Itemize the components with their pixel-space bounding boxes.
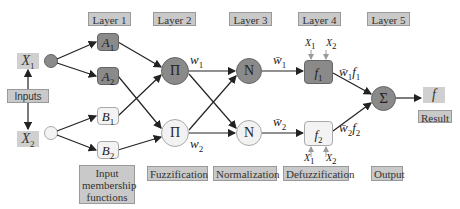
x2-symbol: X — [21, 131, 30, 146]
b1-symbol: B — [102, 109, 110, 124]
w1-bar-symbol: w̄ — [273, 52, 282, 67]
w1-symbol: w — [190, 52, 199, 67]
normalization-node-2: N — [236, 120, 262, 146]
x1-subscript: 1 — [30, 61, 35, 71]
input-x2: X2 — [17, 131, 39, 147]
f1-input-x1: X1 — [305, 37, 316, 51]
w2-bar-subscript: 2 — [282, 122, 287, 132]
output-label: Output — [371, 166, 403, 181]
layer-2-label: Layer 2 — [153, 12, 196, 26]
weight-w2: w2 — [190, 136, 203, 154]
product-node-1: Π — [161, 57, 189, 85]
inputs-label: Inputs — [7, 89, 49, 103]
w1-bar-subscript: 1 — [282, 60, 287, 70]
node-b2: B2 — [97, 141, 119, 159]
node-a1: A1 — [97, 33, 119, 51]
result-f: f — [423, 87, 445, 103]
layer-5-label: Layer 5 — [367, 12, 410, 26]
b1-subscript: 1 — [110, 117, 115, 127]
w2-bar-symbol: w̄ — [273, 114, 282, 129]
x2-subscript: 2 — [30, 139, 35, 149]
f2-input-x1: X1 — [304, 152, 315, 166]
node-a2: A2 — [97, 67, 119, 85]
input-x1: X1 — [17, 53, 39, 69]
f1-input-x2: X2 — [326, 37, 337, 51]
w2-subscript: 2 — [199, 144, 204, 154]
f1-subscript: 1 — [318, 73, 323, 83]
input-membership-functions-label: Input membership functions — [79, 165, 135, 204]
a2-symbol: A — [102, 69, 110, 84]
defuzzification-label: Defuzzification — [283, 166, 349, 181]
node-f2: f2 — [304, 121, 333, 146]
w1f1-f-subscript: 1 — [356, 72, 361, 82]
product-node-2: Π — [161, 119, 189, 147]
b2-symbol: B — [102, 143, 110, 158]
w1f1-w-symbol: w̄ — [339, 64, 348, 79]
node-f1: f1 — [304, 60, 333, 84]
normalized-weight-2: w̄2 — [273, 114, 286, 132]
a1-symbol: A — [102, 35, 110, 50]
w2-symbol: w — [190, 136, 199, 151]
result-label: Result — [418, 110, 452, 123]
product-w2f2: w̄2f2 — [339, 120, 360, 138]
fuzzification-label: Fuzzification — [147, 166, 208, 181]
normalization-label: Normalization — [213, 166, 277, 181]
w2f2-w-symbol: w̄ — [339, 120, 348, 135]
f2-x1-subscript: 1 — [310, 156, 315, 166]
x1-symbol: X — [21, 53, 30, 68]
layer-4-label: Layer 4 — [298, 12, 341, 26]
f2-subscript: 2 — [318, 135, 323, 145]
a1-subscript: 1 — [110, 43, 115, 53]
f1-x1-subscript: 1 — [311, 41, 316, 51]
f1-x2-subscript: 2 — [332, 41, 337, 51]
layer-1-label: Layer 1 — [88, 12, 131, 26]
f2-input-x2: X2 — [326, 152, 337, 166]
f2-x2-subscript: 2 — [332, 156, 337, 166]
summation-node: Σ — [371, 86, 396, 111]
w1-subscript: 1 — [199, 60, 204, 70]
normalization-node-1: N — [236, 58, 262, 84]
normalized-weight-1: w̄1 — [273, 52, 286, 70]
a2-subscript: 2 — [110, 77, 115, 87]
node-b1: B1 — [97, 107, 119, 125]
weight-w1: w1 — [190, 52, 203, 70]
b2-subscript: 2 — [110, 151, 115, 161]
w2f2-f-subscript: 2 — [356, 128, 361, 138]
layer-3-label: Layer 3 — [229, 12, 272, 26]
product-w1f1: w̄1f1 — [339, 64, 360, 82]
